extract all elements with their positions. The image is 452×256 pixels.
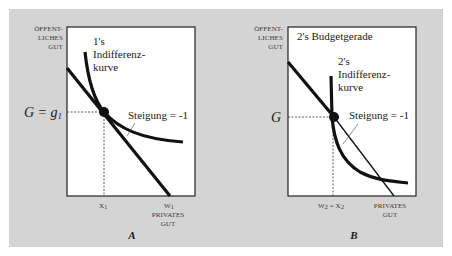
panel-b-budget-label: 2's Budgetgerade — [297, 30, 373, 42]
panel-b-y-axis-label-line3: GUT — [268, 43, 283, 51]
panel-b-y-axis-label-line2: LICHES — [258, 34, 283, 42]
panel-a-y-axis-label-line1: ÖFFENT- — [34, 25, 63, 33]
panel-b-x-axis-label-line2: GUT — [383, 211, 398, 219]
panel-a-y-axis-label-line3: GUT — [48, 43, 63, 51]
panel-b-indiff-label-line1: 2's — [338, 55, 350, 67]
panel-a-x-axis-label-line1: PRIVATES — [152, 211, 185, 219]
panel-b-g-label: G — [271, 110, 281, 125]
figure: ÖFFENT- LICHES GUT 1's Indifferenz- kurv… — [0, 0, 452, 256]
panel-a-y-axis-label-line2: LICHES — [38, 34, 63, 42]
panel-a-indiff-label-line1: 1's — [93, 35, 105, 47]
panel-a: ÖFFENT- LICHES GUT 1's Indifferenz- kurv… — [24, 25, 195, 241]
panel-b-indiff-label-line3: kurve — [338, 81, 363, 93]
panel-b: ÖFFENT- LICHES GUT 2's Budgetgerade 2's … — [254, 25, 416, 241]
panel-b-y-axis-label-line1: ÖFFENT- — [254, 25, 283, 33]
panel-a-g-label: G = g1 — [24, 105, 62, 121]
panel-a-letter: A — [127, 229, 135, 241]
panel-a-indiff-label-line2: Indifferenz- — [93, 48, 146, 60]
panel-b-letter: B — [349, 229, 357, 241]
panel-b-x-axis-label-line1: PRIVATES — [374, 202, 407, 210]
panel-b-slope-label: Steigung = -1 — [349, 109, 409, 121]
panel-b-x-tick: W2 = X2 — [318, 202, 345, 211]
panel-a-indiff-label-line3: kurve — [93, 61, 118, 73]
panel-a-x-axis-label-line2: GUT — [161, 220, 176, 228]
panel-a-slope-label: Steigung = -1 — [128, 109, 188, 121]
panel-b-indiff-label-line2: Indifferenz- — [338, 68, 391, 80]
panel-a-optimum-dot — [99, 107, 109, 117]
panel-a-x1-tick: X1 — [99, 202, 108, 211]
panel-b-optimum-dot — [329, 112, 339, 122]
panel-a-w1-tick: W1 — [164, 202, 175, 211]
